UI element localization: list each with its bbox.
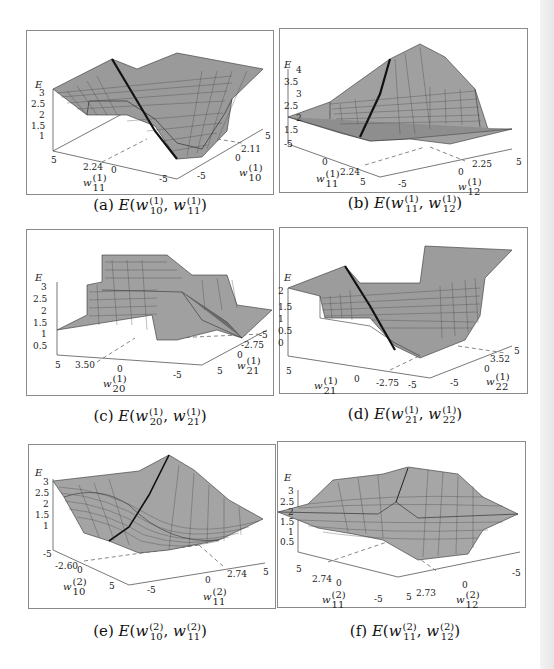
z-tick: 2: [288, 507, 294, 517]
left-axis-tick: 5: [55, 360, 61, 370]
surface-mesh-a: [27, 31, 273, 194]
right-axis-tick: 2.25: [472, 159, 492, 169]
left-axis-tick: 0: [77, 565, 83, 575]
z-tick: 2.5: [33, 294, 47, 304]
surface-plot-e: E 3 2.5 2 1.5 1 -5 -2.60 0 5 w(2)10 -5 0…: [28, 444, 276, 609]
right-axis-label-f: w(2)12: [456, 590, 480, 610]
left-axis-tick: 5: [286, 366, 292, 376]
z-axis-label-d: E: [284, 272, 291, 283]
z-tick: 1.5: [33, 318, 47, 328]
z-tick: 1: [43, 521, 49, 531]
left-axis-tick: -2.75: [376, 378, 399, 388]
surface-plot-a: E 3 2.5 2 1.5 1 5 2.24 0 -5 w(1)11 5 2.1…: [26, 30, 274, 195]
surface-plot-f: E 3 2.5 2 1.5 1 0.5 5 2.74 0 -5 w(2)11 5…: [277, 441, 526, 608]
z-tick: 0: [278, 338, 284, 348]
z-axis-label-f: E: [284, 472, 291, 483]
z-tick: 3: [39, 88, 45, 98]
left-axis-tick: 2.24: [83, 162, 103, 172]
right-axis-tick: -2.75: [241, 340, 264, 350]
z-tick: 1.5: [31, 121, 45, 131]
right-axis-tick: 5: [217, 366, 223, 376]
z-tick: 2: [43, 499, 49, 509]
right-axis-tick: 2.11: [241, 144, 261, 154]
left-axis-tick: -5: [43, 549, 52, 559]
z-tick: 2.5: [284, 101, 298, 111]
right-axis-tick: 0: [458, 167, 464, 177]
right-axis-tick: 2.73: [416, 588, 436, 598]
right-axis-label-e: w(2)11: [203, 587, 227, 607]
left-axis-tick: 0: [336, 578, 342, 588]
left-axis-tick: -5: [408, 380, 417, 390]
z-tick: 0.5: [278, 326, 292, 336]
caption-d: (d) E(w(1)21, w(1)22): [325, 405, 485, 425]
right-axis-tick: 5: [406, 592, 412, 602]
caption-a: (a) E(w(1)10, w(1)11): [70, 196, 230, 216]
z-tick: 1.5: [278, 302, 292, 312]
z-tick: 4: [296, 65, 302, 75]
z-tick: 0.5: [280, 537, 294, 547]
left-axis-tick: 5: [296, 564, 302, 574]
z-tick: 2.5: [35, 488, 49, 498]
left-axis-tick: 5: [360, 177, 366, 187]
right-axis-tick: 2.74: [227, 569, 247, 579]
right-axis-label-c: w(1)21: [237, 356, 261, 376]
left-axis-tick: -2.60: [55, 561, 78, 571]
right-axis-tick: 0: [235, 153, 241, 163]
left-axis-label-c: w(1)20: [103, 374, 127, 394]
z-tick: 3: [43, 477, 49, 487]
caption-b: (b) E(w(1)11, w(1)12): [325, 194, 485, 214]
left-axis-tick: 2.74: [312, 574, 332, 584]
z-tick: 0.5: [33, 341, 47, 351]
z-axis-label-b: E: [284, 59, 291, 70]
caption-e: (e) E(w(2)10, w(2)11): [70, 622, 230, 642]
left-axis-tick: -5: [284, 139, 293, 149]
surface-plot-c: E 3 2.5 2 1.5 1 0.5 5 3.50 0 -5 w(1)20 -…: [26, 229, 274, 396]
z-tick: 1.5: [35, 510, 49, 520]
surface-plot-b: E 4 3.5 3 2.5 2 1.5 -5 0 2.24 5 w(1)11 -…: [279, 28, 528, 193]
z-tick: 2.5: [280, 497, 294, 507]
right-axis-label-d: w(1)22: [486, 372, 510, 392]
left-axis-label-b: w(1)11: [316, 169, 340, 189]
page-edge-shadow: [540, 0, 554, 669]
right-axis-tick: -5: [197, 171, 206, 181]
caption-f: (f) E(w(2)11, w(2)12): [325, 622, 485, 642]
z-tick: 3: [41, 282, 47, 292]
right-axis-tick: 5: [263, 567, 269, 577]
left-axis-tick: 5: [109, 581, 115, 591]
right-axis-tick: 5: [265, 131, 271, 141]
right-axis-tick: 3.52: [490, 354, 510, 364]
z-tick: 1: [288, 527, 294, 537]
left-axis-tick: -5: [173, 370, 182, 380]
left-axis-tick: 2.24: [340, 167, 360, 177]
left-axis-tick: 5: [51, 155, 57, 165]
left-axis-label-e: w(2)10: [63, 577, 87, 597]
right-axis-tick: 5: [514, 346, 520, 356]
right-axis-tick: 0: [205, 575, 211, 585]
z-tick: 1: [41, 329, 47, 339]
right-axis-tick: 5: [516, 157, 522, 167]
surface-plot-d: E 2 1.5 1 0.5 0 5 0 -2.75 -5 w(1)21 5 3.…: [279, 227, 528, 394]
z-axis-label-e: E: [35, 467, 42, 478]
left-axis-label-d: w(1)21: [314, 376, 338, 396]
left-axis-tick: 3.50: [75, 360, 95, 370]
left-axis-tick: -5: [159, 174, 168, 184]
z-tick: 3: [296, 89, 302, 99]
left-axis-tick: 0: [322, 157, 328, 167]
caption-c: (c) E(w(1)20, w(1)21): [70, 407, 230, 427]
z-tick: 1.5: [284, 125, 298, 135]
z-tick: 2: [278, 286, 284, 296]
right-axis-label-a: w(1)10: [239, 163, 263, 183]
z-tick: 1.5: [280, 517, 294, 527]
right-axis-tick: -5: [147, 585, 156, 595]
z-tick: 2: [296, 113, 302, 123]
z-tick: 2: [39, 110, 45, 120]
z-tick: 2: [41, 306, 47, 316]
left-axis-tick: 0: [354, 374, 360, 384]
z-tick: 2.5: [31, 99, 45, 109]
left-axis-tick: 0: [111, 165, 117, 175]
right-axis-tick: -5: [450, 378, 459, 388]
z-tick: 1: [39, 131, 45, 141]
z-tick: 3: [288, 486, 294, 496]
right-axis-tick: -5: [512, 568, 521, 578]
left-axis-label-f: w(2)11: [322, 590, 346, 610]
